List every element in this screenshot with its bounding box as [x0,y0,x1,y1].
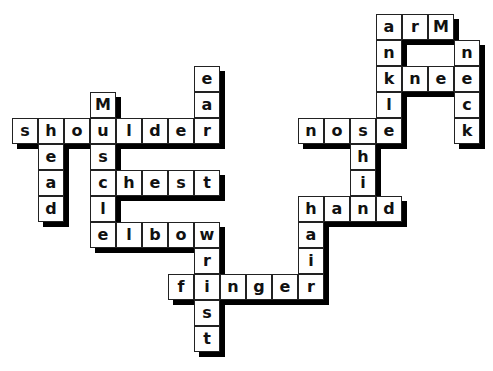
crossword-cell: s [90,144,116,170]
crossword-cell: k [454,118,480,144]
crossword-cell: k [376,66,402,92]
crossword-cell: c [90,170,116,196]
crossword-cell: e [38,144,64,170]
crossword-cell: i [194,274,220,300]
crossword-cell: r [402,14,428,40]
crossword-cell: t [194,170,220,196]
crossword-cell: w [194,222,220,248]
crossword-cell: n [402,66,428,92]
crossword-cell: s [194,300,220,326]
crossword-cell: c [454,92,480,118]
crossword-cell: M [428,14,454,40]
crossword-cell: e [454,66,480,92]
crossword-cell: M [90,92,116,118]
crossword-cell: a [194,92,220,118]
crossword-cell: h [116,170,142,196]
crossword-cell: r [194,118,220,144]
crossword-cell: h [298,196,324,222]
crossword-cell: e [376,118,402,144]
crossword-cell: e [142,170,168,196]
crossword-cell: l [90,196,116,222]
crossword-cell: s [168,170,194,196]
crossword-cell: o [168,222,194,248]
crossword-cell: a [376,14,402,40]
crossword-cell: l [376,92,402,118]
crossword-cell: n [298,118,324,144]
crossword-cell: l [116,118,142,144]
crossword-cell: n [350,196,376,222]
crossword-cell: e [90,222,116,248]
crossword-cell: r [298,274,324,300]
crossword-cell: n [376,40,402,66]
crossword-cell: h [350,144,376,170]
crossword-cell: r [194,248,220,274]
crossword-cell: s [12,118,38,144]
crossword-cell: d [38,196,64,222]
crossword-cell: a [38,170,64,196]
crossword-cell: a [324,196,350,222]
crossword-cell: o [324,118,350,144]
crossword-cell: u [90,118,116,144]
crossword-cell: b [142,222,168,248]
crossword-grid: arMnkleneencknoshinhadairfingewrstelboMu… [0,0,493,371]
crossword-cell: l [116,222,142,248]
crossword-cell: d [142,118,168,144]
crossword-cell: d [376,196,402,222]
crossword-cell: n [454,40,480,66]
crossword-cell: n [220,274,246,300]
crossword-cell: i [298,248,324,274]
crossword-cell: o [64,118,90,144]
crossword-cell: a [298,222,324,248]
crossword-cell: g [246,274,272,300]
crossword-cell: s [350,118,376,144]
crossword-cell: i [350,170,376,196]
crossword-cell: e [272,274,298,300]
crossword-cell: f [168,274,194,300]
crossword-cell: t [194,326,220,352]
crossword-cell: e [428,66,454,92]
crossword-cell: e [194,66,220,92]
crossword-cell: h [38,118,64,144]
crossword-cell: e [168,118,194,144]
